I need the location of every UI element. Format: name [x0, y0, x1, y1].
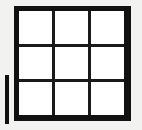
grid-cells-container — [19, 11, 124, 115]
grid-cell-r1c1[interactable] — [19, 11, 52, 44]
grid-cell-r3c2[interactable] — [55, 82, 88, 115]
vertical-bar-marker — [5, 75, 9, 124]
grid-outer-frame — [14, 6, 131, 121]
grid-cell-r1c3[interactable] — [91, 11, 124, 44]
grid-cell-r3c3[interactable] — [91, 82, 124, 115]
grid-figure — [0, 0, 142, 130]
grid-cell-r1c2[interactable] — [55, 11, 88, 44]
grid-cell-r2c1[interactable] — [19, 47, 52, 80]
grid-cell-r2c2[interactable] — [55, 47, 88, 80]
grid-cell-r2c3[interactable] — [91, 47, 124, 80]
grid-cell-r3c1[interactable] — [19, 82, 52, 115]
